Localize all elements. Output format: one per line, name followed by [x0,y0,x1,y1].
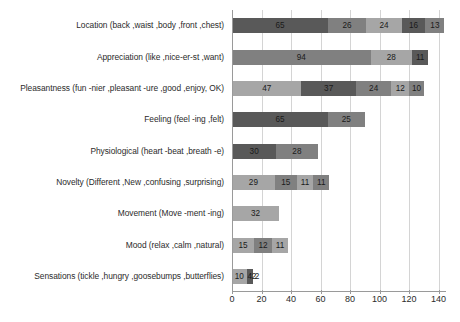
category-label: Physiological (heart -beat ,breath -e) [0,146,224,157]
bar-segment[interactable]: 16 [402,18,426,33]
stacked-bar-chart: Location (back ,waist ,body ,front ,ches… [0,0,460,322]
bar-segment[interactable]: 10 [232,269,247,284]
bar-segment-value: 11 [301,178,310,187]
bar-segment[interactable]: 26 [328,18,366,33]
bar-segment-value: 37 [324,84,333,93]
bar-segment[interactable]: 12 [391,81,409,96]
bar-segment[interactable]: 15 [232,238,254,253]
x-tick-label: 80 [345,294,355,304]
category-label: Sensations (tickle ,hungry ,goosebumps ,… [0,271,224,282]
category-label: Feeling (feel -ing ,felt) [0,114,224,125]
bar-row[interactable]: 151211 [232,238,288,253]
bar-row[interactable]: 3028 [232,144,318,159]
bar-segment-value: 12 [396,84,405,93]
category-label: Pleasantness (fun -nier ,pleasant -ure ,… [0,83,224,94]
bar-segment-value: 2 [255,272,260,281]
bar-segment[interactable]: 13 [425,18,444,33]
bar-segment-value: 28 [387,53,396,62]
bar-segment[interactable]: 32 [232,206,279,221]
plot-area: 6526241613942811473724121065253028291511… [232,10,446,292]
bar-segment[interactable]: 29 [232,175,275,190]
bar-row[interactable]: 6525 [232,112,365,127]
bar-segment-value: 94 [297,53,306,62]
x-tick-label: 20 [257,294,267,304]
bar-segment-value: 30 [250,147,259,156]
bar-segment-value: 32 [251,209,260,218]
bar-segment[interactable]: 15 [275,175,297,190]
bar-segment-value: 65 [275,21,284,30]
bar-row[interactable]: 942811 [232,50,428,65]
category-label: Appreciation (like ,nice-er-st ,want) [0,52,224,63]
x-tick-label: 0 [229,294,234,304]
bar-segment[interactable]: 10 [409,81,424,96]
bar-row[interactable]: 10422 [232,269,259,284]
bar-segment-value: 24 [369,84,378,93]
y-axis-line [232,10,233,292]
x-tick-label: 40 [286,294,296,304]
bar-segment-value: 26 [343,21,352,30]
bar-segment-value: 13 [430,21,439,30]
gridline-140 [439,10,440,292]
bar-segment[interactable]: 47 [232,81,301,96]
bar-segment-value: 25 [342,115,351,124]
category-label-column: Location (back ,waist ,body ,front ,ches… [0,10,228,292]
bar-segment[interactable]: 11 [412,50,428,65]
bar-segment-value: 10 [412,84,421,93]
bar-segment-value: 12 [258,241,267,250]
bar-segment[interactable]: 24 [366,18,401,33]
bar-segment-value: 11 [317,178,326,187]
bar-segment[interactable]: 28 [371,50,412,65]
bar-row[interactable]: 29151111 [232,175,329,190]
category-label: Mood (relax ,calm ,natural) [0,240,224,251]
bar-segment[interactable]: 65 [232,112,328,127]
x-axis-tick-labels: 020406080100120140 [232,294,446,312]
x-tick-label: 100 [372,294,387,304]
category-label: Movement (Move -ment -ing) [0,208,224,219]
bar-segment[interactable]: 25 [328,112,365,127]
bar-segment-value: 15 [239,241,248,250]
bar-segment-value: 29 [249,178,258,187]
bar-row[interactable]: 4737241210 [232,81,424,96]
bar-segment-value: 15 [281,178,290,187]
bar-segment-value: 28 [292,147,301,156]
bar-segment-value: 11 [276,241,285,250]
bar-row[interactable]: 32 [232,206,279,221]
bar-segment-value: 65 [275,115,284,124]
bar-segment[interactable]: 28 [276,144,317,159]
bar-segment[interactable]: 94 [232,50,371,65]
category-label: Novelty (Different ,New ,confusing ,surp… [0,177,224,188]
bar-row[interactable]: 6526241613 [232,18,444,33]
x-tick-label: 140 [431,294,446,304]
bar-segment-value: 11 [416,53,425,62]
x-tick-label: 120 [402,294,417,304]
bar-segment[interactable]: 2 [256,269,259,284]
bar-segment[interactable]: 12 [254,238,272,253]
bar-segment-value: 24 [379,21,388,30]
bar-segment[interactable]: 65 [232,18,328,33]
bar-segment[interactable]: 30 [232,144,276,159]
x-tick-label: 60 [316,294,326,304]
bar-segment-value: 10 [235,272,244,281]
x-axis-baseline [232,291,446,292]
bar-segment[interactable]: 11 [297,175,313,190]
bar-segment-value: 47 [262,84,271,93]
bar-segment[interactable]: 11 [313,175,329,190]
bar-segment[interactable]: 11 [272,238,288,253]
bar-segment[interactable]: 37 [301,81,356,96]
bar-segment-value: 16 [409,21,418,30]
category-label: Location (back ,waist ,body ,front ,ches… [0,20,224,31]
bar-segment[interactable]: 24 [356,81,391,96]
